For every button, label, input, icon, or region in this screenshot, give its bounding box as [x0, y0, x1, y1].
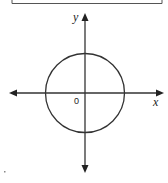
answer-box: [12, 0, 162, 4]
x-axis: [9, 90, 164, 97]
stray-mark: [4, 171, 6, 173]
y-axis-up-arrow-icon: [82, 13, 89, 21]
x-axis-label: x: [153, 96, 158, 108]
y-axis-label: y: [73, 11, 78, 23]
coordinate-diagram: [0, 0, 168, 183]
origin-label: 0: [74, 97, 79, 106]
x-axis-left-arrow-icon: [9, 90, 17, 97]
y-axis-down-arrow-icon: [82, 165, 89, 173]
